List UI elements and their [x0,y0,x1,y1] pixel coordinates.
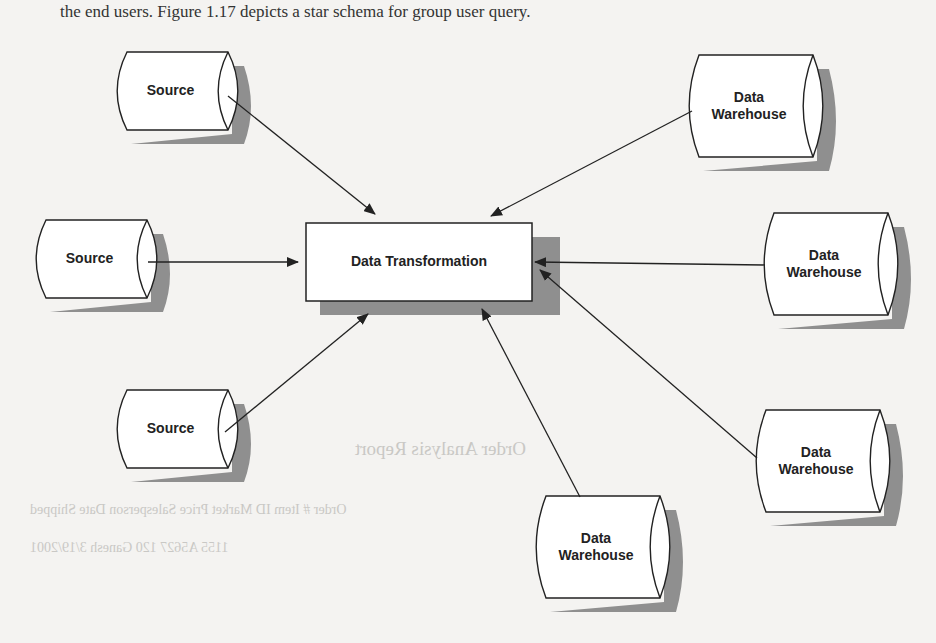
data-warehouse-cylinder-2-label: DataWarehouse [760,247,888,281]
source-cylinder-2-label: Source [32,250,147,267]
data-warehouse-cylinder-1-label: DataWarehouse [685,89,813,123]
data-warehouse-cylinder-4-label: DataWarehouse [532,530,660,564]
source-cylinder-1-label: Source [113,82,228,99]
data-warehouse-cylinder-3-label: DataWarehouse [752,444,880,478]
data-transformation-label: Data Transformation [306,253,532,270]
source-cylinder-3-label: Source [113,420,228,437]
